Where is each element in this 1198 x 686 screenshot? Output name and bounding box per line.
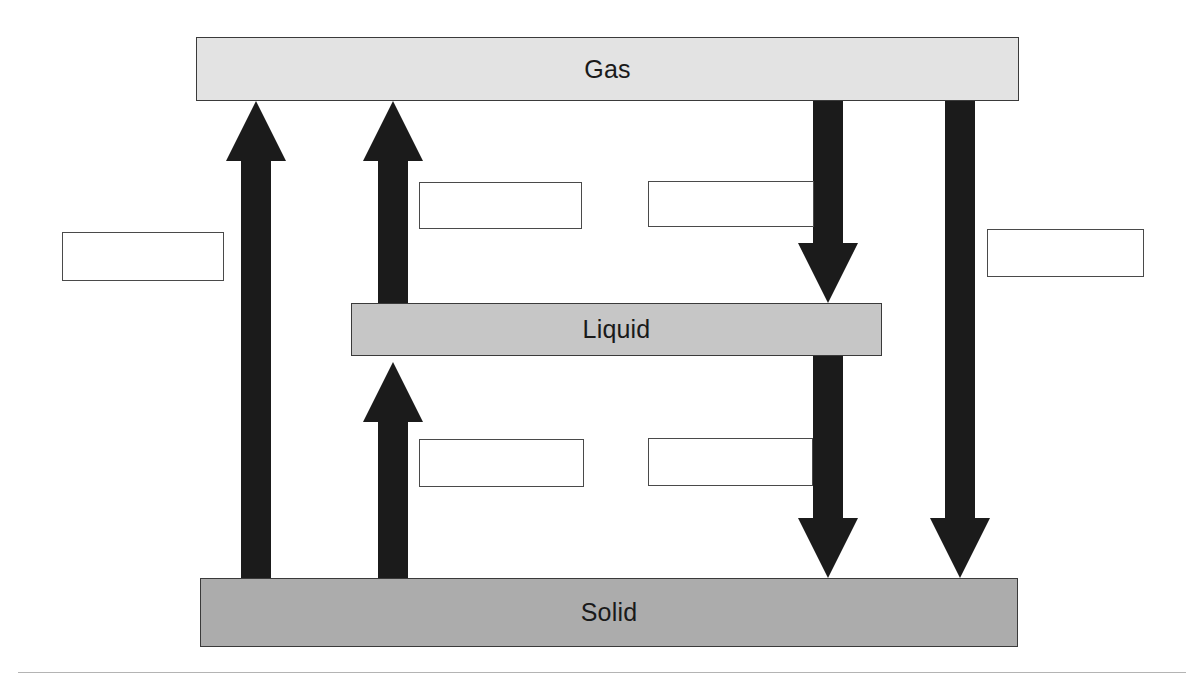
phase-label-liquid: Liquid <box>583 315 651 344</box>
label-box-upper-left[interactable] <box>419 182 582 229</box>
label-box-upper-right[interactable] <box>648 181 814 227</box>
phase-label-solid: Solid <box>581 598 638 627</box>
arrow-liquid-to-gas <box>363 101 423 303</box>
arrow-solid-to-liquid <box>363 362 423 578</box>
label-box-right[interactable] <box>987 229 1144 277</box>
phase-change-diagram: Gas Liquid Solid <box>0 0 1198 686</box>
arrow-gas-to-solid <box>930 101 990 578</box>
phase-box-liquid: Liquid <box>351 303 882 356</box>
phase-box-solid: Solid <box>200 578 1018 647</box>
phase-box-gas: Gas <box>196 37 1019 101</box>
arrow-solid-to-gas <box>226 101 286 578</box>
label-box-lower-left[interactable] <box>419 439 584 487</box>
bottom-divider <box>18 672 1186 673</box>
phase-label-gas: Gas <box>584 55 630 84</box>
label-box-lower-right[interactable] <box>648 438 813 486</box>
label-box-left[interactable] <box>62 232 224 281</box>
